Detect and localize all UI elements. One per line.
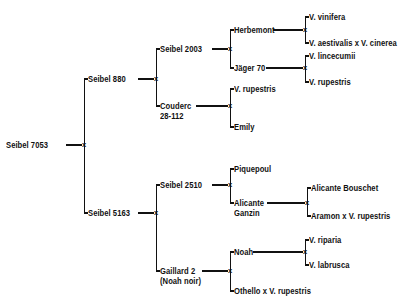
node-seibel-7053[interactable]: Seibel 7053	[6, 141, 48, 151]
junction-seibel-5163: x	[154, 209, 158, 217]
junction-couderc: x	[228, 102, 232, 110]
junction-jager-70: x	[303, 64, 307, 72]
junction-herbemont: x	[303, 26, 307, 34]
junction-gaillard-2: x	[228, 267, 232, 275]
junction-seibel-2510: x	[228, 181, 232, 189]
node-othello-x-v-rupestris[interactable]: Othello x V. rupestris	[234, 287, 311, 297]
junction-seibel-880: x	[154, 75, 158, 83]
node-alicante-ganzin-line-1: Alicante	[234, 199, 264, 208]
node-alicante-ganzin[interactable]: Alicante Ganzin	[234, 199, 264, 218]
pedigree-diagram: Seibel 7053 x Seibel 880 x Seibel 5163 x…	[0, 0, 413, 305]
node-herbemont[interactable]: Herbemont	[234, 26, 275, 36]
node-v-vinifera[interactable]: V. vinifera	[309, 13, 345, 23]
node-emily[interactable]: Emily	[234, 123, 255, 133]
junction-alicante-ganzin: x	[305, 199, 309, 207]
node-v-rupestris-jager[interactable]: V. rupestris	[309, 78, 351, 88]
node-couderc-28-112[interactable]: Couderc 28-112	[160, 102, 191, 121]
node-gaillard-2-line-1: Gaillard 2	[160, 267, 195, 276]
junction-noah: x	[303, 248, 307, 256]
node-gaillard-2[interactable]: Gaillard 2 (Noah noir)	[160, 267, 201, 286]
junction-root: x	[82, 141, 86, 149]
node-aramon-x-v-rupestris[interactable]: Aramon x V. rupestris	[311, 212, 390, 222]
node-v-rupestris-couderc[interactable]: V. rupestris	[234, 85, 276, 95]
node-v-aestivalis-x-v-cinerea[interactable]: V. aestivalis x V. cinerea	[309, 39, 397, 49]
node-seibel-5163[interactable]: Seibel 5163	[88, 209, 130, 219]
node-piquepoul[interactable]: Piquepoul	[234, 165, 271, 175]
junction-seibel-2003: x	[228, 45, 232, 53]
node-couderc-line-2: 28-112	[160, 112, 191, 122]
node-v-labrusca[interactable]: V. labrusca	[309, 261, 349, 271]
node-noah[interactable]: Noah	[234, 248, 253, 258]
node-seibel-2510[interactable]: Seibel 2510	[160, 181, 202, 191]
node-jager-70[interactable]: Jäger 70	[234, 64, 265, 74]
node-v-lincecumii[interactable]: V. lincecumii	[309, 52, 355, 62]
node-gaillard-2-line-2: (Noah noir)	[160, 277, 201, 287]
node-v-riparia[interactable]: V. riparia	[309, 236, 341, 246]
node-couderc-line-1: Couderc	[160, 102, 191, 111]
node-alicante-ganzin-line-2: Ganzin	[234, 209, 264, 219]
node-seibel-2003[interactable]: Seibel 2003	[160, 45, 202, 55]
node-alicante-bouschet[interactable]: Alicante Bouschet	[311, 184, 378, 194]
node-seibel-880[interactable]: Seibel 880	[88, 75, 126, 85]
